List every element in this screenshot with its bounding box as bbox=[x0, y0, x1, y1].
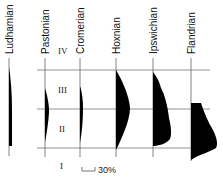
zone-label-iii: III bbox=[58, 85, 67, 95]
pollen-diagram: Ludhamian Pastonian Cromerian Hoxnian Ip… bbox=[0, 0, 223, 183]
curve-hoxnian bbox=[116, 70, 130, 150]
scale-bar bbox=[82, 167, 95, 171]
label-ipswichian: Ipswichian bbox=[148, 7, 159, 54]
scale-label: 30% bbox=[98, 165, 116, 175]
curve-flandrian bbox=[191, 103, 217, 160]
label-pastonian: Pastonian bbox=[40, 10, 51, 54]
zone-label-iv: IV bbox=[58, 46, 68, 56]
curve-ludhamian bbox=[9, 67, 12, 146]
label-cromerian: Cromerian bbox=[75, 7, 86, 54]
zone-label-ii: II bbox=[59, 124, 65, 134]
curves bbox=[9, 67, 217, 160]
label-hoxnian: Hoxnian bbox=[111, 17, 122, 54]
stage-labels: Ludhamian Pastonian Cromerian Hoxnian Ip… bbox=[4, 5, 197, 54]
label-ludhamian: Ludhamian bbox=[4, 5, 15, 54]
label-flandrian: Flandrian bbox=[186, 12, 197, 54]
curve-cromerian bbox=[80, 86, 83, 143]
zone-label-i: I bbox=[60, 161, 63, 171]
curve-pastonian bbox=[45, 88, 49, 142]
